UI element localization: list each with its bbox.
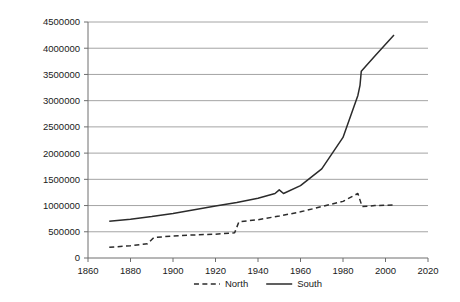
y-tick-label: 1500000 (43, 174, 80, 185)
y-axis (84, 22, 88, 258)
y-tick-label: 2500000 (43, 121, 80, 132)
y-tick-label: 1000000 (43, 200, 80, 211)
y-tick-label: 4500000 (43, 16, 80, 27)
y-tick-label: 2000000 (43, 148, 80, 159)
x-tick-label: 1880 (120, 265, 141, 276)
x-axis (88, 258, 428, 262)
x-tick-label: 1960 (290, 265, 311, 276)
chart-canvas: 0500000100000015000002000000250000030000… (0, 0, 460, 302)
x-tick-label: 1900 (162, 265, 183, 276)
y-tick-label: 3500000 (43, 69, 80, 80)
x-tick-label: 1860 (77, 265, 98, 276)
x-tick-label: 1940 (247, 265, 268, 276)
y-tick-label: 3000000 (43, 95, 80, 106)
data-series (109, 35, 394, 247)
series-line-north (109, 193, 394, 247)
legend-label-north: North (225, 278, 248, 289)
x-tick-label: 1980 (332, 265, 353, 276)
x-tick-label: 1920 (205, 265, 226, 276)
y-tick-label: 4000000 (43, 43, 80, 54)
x-tick-label: 2000 (375, 265, 396, 276)
series-line-south (109, 35, 394, 221)
x-tick-labels: 186018801900192019401960198020002020 (77, 265, 438, 276)
chart-legend: NorthSouth (194, 278, 322, 289)
legend-label-south: South (297, 278, 322, 289)
x-tick-label: 2020 (417, 265, 438, 276)
y-tick-label: 500000 (48, 226, 80, 237)
line-chart: 0500000100000015000002000000250000030000… (0, 0, 460, 302)
y-tick-labels: 0500000100000015000002000000250000030000… (43, 16, 80, 263)
y-tick-label: 0 (75, 252, 80, 263)
